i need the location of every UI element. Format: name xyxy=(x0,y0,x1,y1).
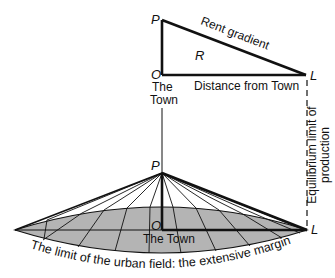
bottom-label-O: O xyxy=(151,218,161,233)
bottom-label-P: P xyxy=(151,158,160,173)
bottom-town-label: The Town xyxy=(143,232,195,246)
distance-from-town-label: Distance from Town xyxy=(194,79,299,93)
bottom-label-L: L xyxy=(311,222,318,237)
area-label-R: R xyxy=(195,48,204,63)
equilibrium-label-line2: production xyxy=(318,127,332,183)
equilibrium-annotation: Equilibrium limit of production xyxy=(305,106,332,204)
top-town-label-line1: The xyxy=(152,80,173,94)
top-label-L: L xyxy=(310,68,317,83)
von-thunen-rent-cone-diagram: P O L R Rent gradient Distance from Town… xyxy=(0,0,335,278)
top-town-label-line2: Town xyxy=(150,93,178,107)
equilibrium-label-line1: Equilibrium limit of xyxy=(305,106,319,204)
top-label-P: P xyxy=(151,12,160,27)
